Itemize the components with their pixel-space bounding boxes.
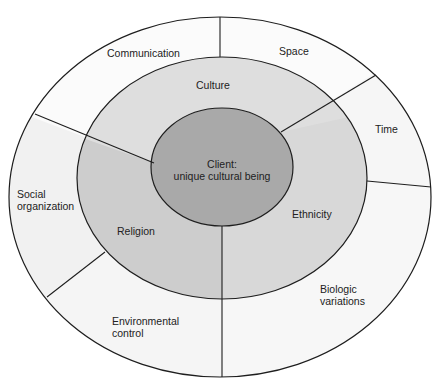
- label-biologic-variations: Biologic variations: [320, 283, 365, 307]
- label-communication: Communication: [107, 47, 180, 59]
- label-social-line1: Social: [17, 188, 74, 200]
- label-religion: Religion: [117, 225, 155, 237]
- label-space: Space: [279, 45, 309, 57]
- label-environmental-control: Environmental control: [112, 315, 179, 339]
- label-environmental-line2: control: [112, 327, 179, 339]
- label-client: Client: unique cultural being: [162, 158, 282, 182]
- label-client-line2: unique cultural being: [162, 170, 282, 182]
- label-culture: Culture: [196, 79, 230, 91]
- label-client-line1: Client:: [162, 158, 282, 170]
- label-time: Time: [375, 123, 398, 135]
- label-social-organization: Social organization: [17, 188, 74, 212]
- label-social-line2: organization: [17, 200, 74, 212]
- label-biologic-line2: variations: [320, 295, 365, 307]
- label-environmental-line1: Environmental: [112, 315, 179, 327]
- label-biologic-line1: Biologic: [320, 283, 365, 295]
- label-ethnicity: Ethnicity: [292, 208, 332, 220]
